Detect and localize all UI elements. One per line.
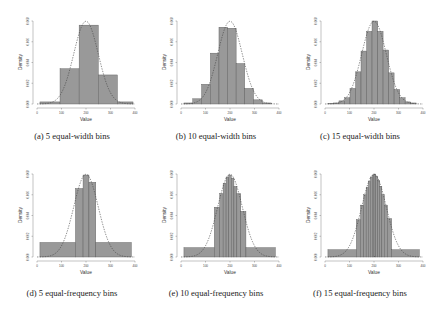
y-tick-label: 0.000: [26, 100, 30, 108]
x-tick-label: 200: [227, 264, 232, 268]
x-tick-label: 300: [396, 111, 401, 115]
y-tick-label: 0.002: [314, 79, 318, 87]
histogram-bar: [89, 182, 96, 257]
histogram-bar: [254, 100, 263, 104]
x-tick-label: 0: [36, 264, 38, 268]
y-tick-label: 0.006: [170, 38, 174, 46]
x-tick-label: 300: [252, 264, 257, 268]
x-tick-label: 100: [203, 264, 208, 268]
caption-b: (b) 10 equal-width bins: [144, 131, 288, 141]
histogram-plot-b: 0100200300400Value0.0000.0020.0040.0060.…: [144, 0, 288, 130]
histogram-bar: [245, 88, 254, 104]
histogram-bar: [372, 21, 378, 104]
y-tick-label: 0.004: [170, 211, 174, 219]
histogram-bar: [380, 186, 382, 257]
histogram-bar: [400, 98, 405, 104]
y-tick-label: 0.008: [314, 17, 318, 25]
histogram-bar: [75, 189, 83, 257]
histogram-bar: [378, 180, 380, 257]
histogram-bar: [229, 175, 231, 257]
caption-f: (f) 15 equal-frequency bins: [288, 288, 432, 298]
y-axis-label: Density: [18, 206, 23, 223]
histogram-bar: [210, 53, 219, 104]
x-tick-label: 200: [83, 264, 88, 268]
histogram-bar: [361, 51, 367, 104]
histogram-bar: [223, 183, 226, 257]
histogram-bar: [214, 207, 219, 257]
y-tick-label: 0.002: [26, 79, 30, 87]
x-axis-label: Value: [224, 117, 236, 122]
x-axis: 0100200300400Value: [180, 108, 282, 122]
x-axis-label: Value: [368, 117, 380, 122]
histogram-plot-d: 0100200300400Value0.0000.0020.0040.0060.…: [0, 153, 144, 283]
histogram-bar: [328, 250, 356, 257]
caption-e: (e) 10 equal-frequency bins: [144, 288, 288, 298]
bars: [184, 27, 272, 104]
histogram-bar: [237, 194, 241, 257]
histogram-bar: [220, 194, 223, 257]
x-tick-label: 400: [132, 264, 137, 268]
histogram-bar: [374, 174, 376, 257]
histogram-bar: [96, 242, 132, 257]
x-tick-label: 400: [420, 111, 425, 115]
x-axis: 0100200300400Value: [324, 108, 426, 122]
x-tick-label: 400: [132, 111, 137, 115]
y-axis: 0.0000.0020.0040.0060.008Density: [18, 17, 33, 108]
bars: [328, 174, 419, 257]
y-axis-label: Density: [306, 53, 311, 70]
histogram-bar: [392, 250, 420, 257]
x-axis-label: Value: [80, 117, 92, 122]
y-axis: 0.0000.0020.0040.0060.008Density: [162, 170, 177, 261]
panel-c: 0100200300400Value0.0000.0020.0040.0060.…: [288, 0, 432, 150]
y-axis: 0.0000.0020.0040.0060.008Density: [162, 17, 177, 108]
histogram-bar: [394, 89, 400, 104]
histogram-plot-a: 0100200300400Value0.0000.0020.0040.0060.…: [0, 0, 144, 130]
y-tick-label: 0.008: [26, 17, 30, 25]
y-tick-label: 0.000: [314, 100, 318, 108]
x-axis: 0100200300400Value: [36, 108, 138, 122]
histogram-bar: [241, 211, 246, 257]
y-tick-label: 0.008: [170, 17, 174, 25]
histogram-bar: [79, 25, 98, 104]
histogram-bar: [202, 84, 211, 104]
y-tick-label: 0.000: [170, 253, 174, 261]
histogram-bar: [339, 101, 345, 104]
panel-b: 0100200300400Value0.0000.0020.0040.0060.…: [144, 0, 288, 150]
x-tick-label: 300: [108, 264, 113, 268]
panel-a: 0100200300400Value0.0000.0020.0040.0060.…: [0, 0, 144, 150]
histogram-bar: [364, 195, 366, 257]
x-tick-label: 400: [276, 111, 281, 115]
y-tick-label: 0.002: [170, 79, 174, 87]
panel-e: 0100200300400Value0.0000.0020.0040.0060.…: [144, 153, 288, 303]
histogram-bar: [228, 28, 237, 104]
x-tick-label: 0: [324, 111, 326, 115]
x-tick-label: 0: [324, 264, 326, 268]
x-tick-label: 100: [59, 111, 64, 115]
histogram-plot-c: 0100200300400Value0.0000.0020.0040.0060.…: [288, 0, 432, 130]
y-tick-label: 0.006: [170, 191, 174, 199]
histogram-bar: [368, 181, 370, 257]
histogram-bar: [383, 50, 389, 104]
y-tick-label: 0.008: [314, 170, 318, 178]
y-tick-label: 0.000: [314, 253, 318, 261]
x-axis-label: Value: [80, 270, 92, 275]
histogram-bar: [234, 186, 237, 257]
y-tick-label: 0.002: [314, 232, 318, 240]
histogram-bar: [231, 178, 234, 257]
y-tick-label: 0.006: [26, 191, 30, 199]
y-tick-label: 0.002: [26, 232, 30, 240]
y-tick-label: 0.004: [26, 211, 30, 219]
caption-d: (d) 5 equal-frequency bins: [0, 288, 144, 298]
panel-d: 0100200300400Value0.0000.0020.0040.0060.…: [0, 153, 144, 303]
y-axis: 0.0000.0020.0040.0060.008Density: [18, 170, 33, 261]
x-tick-label: 100: [59, 264, 64, 268]
x-axis-label: Value: [368, 270, 380, 275]
y-tick-label: 0.004: [26, 58, 30, 66]
caption-c: (c) 15 equal-width bins: [288, 131, 432, 141]
histogram-bar: [367, 31, 372, 104]
histogram-bar: [356, 72, 361, 104]
histogram-bar: [361, 205, 364, 257]
y-tick-label: 0.006: [314, 38, 318, 46]
bars: [328, 21, 416, 104]
y-tick-label: 0.000: [26, 253, 30, 261]
